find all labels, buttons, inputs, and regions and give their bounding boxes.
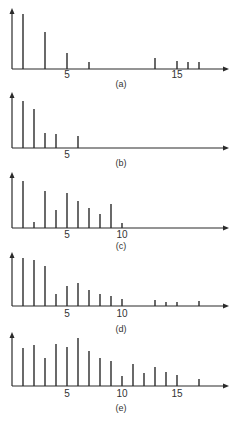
x-tick-label: 15 bbox=[171, 388, 183, 399]
x-tick-label: 10 bbox=[116, 229, 128, 240]
y-axis-arrow-icon bbox=[10, 172, 15, 178]
x-tick-label: 5 bbox=[64, 149, 70, 160]
y-axis-arrow-icon bbox=[10, 332, 15, 338]
stem-plot-figure: 515(a)5(b)510(c)510(d)51015(e) bbox=[0, 0, 236, 423]
y-axis-arrow-icon bbox=[10, 92, 15, 98]
x-tick-label: 15 bbox=[171, 69, 183, 80]
panel-caption: (b) bbox=[116, 158, 127, 168]
x-axis-arrow-icon bbox=[223, 226, 229, 231]
stem-chart-b: 5(b) bbox=[10, 92, 230, 168]
x-axis-arrow-icon bbox=[223, 146, 229, 151]
stem-chart-a: 515(a) bbox=[10, 8, 230, 89]
stem-chart-c: 510(c) bbox=[10, 172, 230, 251]
x-tick-label: 5 bbox=[64, 388, 70, 399]
x-tick-label: 5 bbox=[64, 308, 70, 319]
panel-caption: (a) bbox=[116, 79, 127, 89]
x-tick-label: 10 bbox=[116, 308, 128, 319]
y-axis-arrow-icon bbox=[10, 252, 15, 258]
panel-caption: (d) bbox=[116, 324, 127, 334]
y-axis-arrow-icon bbox=[10, 8, 15, 14]
x-axis-arrow-icon bbox=[223, 67, 229, 72]
panel-caption: (e) bbox=[116, 403, 127, 413]
x-tick-label: 5 bbox=[64, 229, 70, 240]
x-axis-arrow-icon bbox=[223, 384, 229, 389]
stem-chart-d: 510(d) bbox=[10, 252, 230, 334]
stem-chart-e: 51015(e) bbox=[10, 332, 230, 413]
panel-caption: (c) bbox=[116, 241, 127, 251]
x-tick-label: 5 bbox=[64, 69, 70, 80]
x-tick-label: 10 bbox=[116, 388, 128, 399]
figure-canvas: 515(a)5(b)510(c)510(d)51015(e) bbox=[0, 0, 236, 423]
x-axis-arrow-icon bbox=[223, 304, 229, 309]
